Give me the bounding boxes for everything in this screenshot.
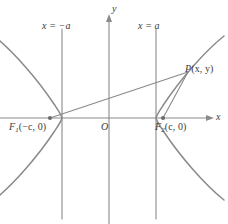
figure-canvas [0, 0, 228, 224]
hyperbola-figure: x = −a x = a y x O F1(−c, 0) F2(c, 0) P(… [0, 0, 228, 224]
origin-label: O [101, 122, 108, 132]
directrix-left-label: x = −a [42, 21, 71, 31]
focus-f1-subscript: 1 [15, 126, 19, 134]
focus-f2-dot [161, 116, 165, 120]
focus-f2-subscript: 2 [161, 126, 165, 134]
focus-f2-label: F2(c, 0) [155, 122, 187, 132]
x-axis-arrowhead [206, 115, 214, 121]
point-p-label: P(x, y) [185, 64, 213, 74]
y-axis-arrowhead [106, 14, 112, 22]
focus-f1-coords: (−c, 0) [19, 121, 46, 132]
focus-f2-coords: (c, 0) [165, 121, 187, 132]
point-p-coords: (x, y) [191, 63, 213, 74]
x-axis-label: x [216, 112, 221, 122]
y-axis-label: y [112, 4, 117, 14]
focus-f1-label: F1(−c, 0) [9, 122, 46, 132]
directrix-right-label: x = a [138, 21, 160, 31]
focus-f1-dot [48, 116, 52, 120]
